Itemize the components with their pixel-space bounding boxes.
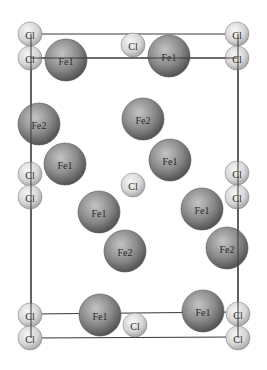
fe-atom: Fe2 [122,98,164,140]
cl-atom: Cl [18,303,42,327]
atom-label: Fe1 [195,205,210,216]
atoms: ClClClClClClClClClClClClClClClFe1Fe1Fe2F… [18,22,250,350]
atom-label: Cl [232,30,242,41]
atom-label: Fe1 [59,56,74,67]
atom-label: Cl [25,311,35,322]
fe-atom: Fe1 [149,139,191,181]
cl-atom: Cl [121,173,145,197]
atom-label: Fe1 [93,311,108,322]
atom-label: Fe2 [118,247,133,258]
cl-atom: Cl [18,185,42,209]
atom-label: Fe1 [196,307,211,318]
cl-atom: Cl [225,161,249,185]
fe-atom: Fe1 [45,39,87,81]
fe-atom: Fe1 [181,188,223,230]
atom-label: Cl [25,170,35,181]
atom-label: Cl [128,41,138,52]
atom-label: Cl [232,169,242,180]
cl-atom: Cl [225,185,249,209]
atom-label: Fe2 [220,244,235,255]
fe-atom: Fe1 [44,143,86,185]
atom-label: Cl [25,193,35,204]
fe-atom: Fe1 [182,290,224,332]
crystal-structure-diagram: ClClClClClClClClClClClClClClClFe1Fe1Fe2F… [0,0,267,370]
cl-atom: Cl [18,326,42,350]
atom-label: Cl [25,54,35,65]
cl-atom: Cl [18,162,42,186]
fe-atom: Fe1 [78,191,120,233]
atom-label: Fe2 [136,115,151,126]
atom-label: Cl [25,30,35,41]
atom-label: Fe1 [92,208,107,219]
cl-atom: Cl [123,313,147,337]
fe-atom: Fe2 [18,103,60,145]
atom-label: Cl [232,193,242,204]
atom-label: Fe1 [58,160,73,171]
atom-label: Cl [25,334,35,345]
fe-atom: Fe1 [79,294,121,336]
atom-label: Cl [232,54,242,65]
atom-label: Fe1 [162,52,177,63]
atom-label: Fe2 [32,120,47,131]
cl-atom: Cl [18,22,42,46]
atom-label: Fe1 [163,156,178,167]
cl-atom: Cl [121,33,145,57]
fe-atom: Fe1 [148,35,190,77]
fe-atom: Fe2 [104,230,146,272]
atom-label: Cl [130,321,140,332]
atom-label: Cl [128,181,138,192]
fe-atom: Fe2 [206,227,248,269]
cl-atom: Cl [225,22,249,46]
